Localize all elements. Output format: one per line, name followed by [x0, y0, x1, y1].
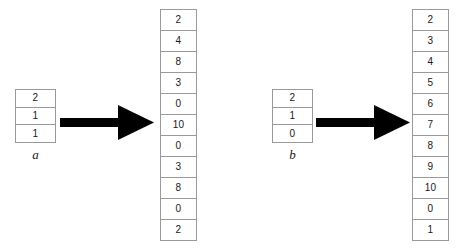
array-cell: 0: [413, 199, 448, 220]
output-array-a: 2 4 8 3 0 10 0 3 8 0 2: [160, 9, 197, 241]
array-label-a: a: [15, 148, 56, 161]
array-cell: 10: [413, 178, 448, 199]
array-cell: 5: [413, 73, 448, 94]
array-cell: 9: [413, 157, 448, 178]
array-cell: 1: [273, 108, 312, 126]
array-cell: 3: [161, 73, 196, 94]
array-cell: 1: [16, 125, 55, 142]
array-cell: 2: [161, 10, 196, 31]
array-cell: 0: [161, 199, 196, 220]
output-array-b: 2 3 4 5 6 7 8 9 10 0 1: [412, 9, 449, 241]
array-cell: 3: [413, 31, 448, 52]
array-cell: 2: [413, 10, 448, 31]
array-cell: 8: [413, 136, 448, 157]
input-array-a: 2 1 1: [15, 89, 56, 143]
array-cell: 2: [161, 220, 196, 240]
array-cell: 6: [413, 94, 448, 115]
array-cell: 1: [16, 108, 55, 126]
array-cell: 7: [413, 115, 448, 136]
array-cell: 2: [16, 90, 55, 108]
input-array-b: 2 1 0: [272, 89, 313, 143]
array-cell: 8: [161, 52, 196, 73]
array-cell: 4: [161, 31, 196, 52]
diagram-canvas: 2 1 1 a 2 4 8 3 0 10 0 3 8 0 2 2 1 0 b 2…: [0, 0, 463, 248]
array-cell: 2: [273, 90, 312, 108]
arrow-right-icon: [60, 103, 156, 143]
array-cell: 0: [273, 125, 312, 142]
array-cell: 8: [161, 178, 196, 199]
array-cell: 1: [413, 220, 448, 240]
array-cell: 10: [161, 115, 196, 136]
array-label-b: b: [272, 148, 313, 161]
arrow-right-icon: [316, 103, 412, 143]
array-cell: 3: [161, 157, 196, 178]
array-cell: 0: [161, 136, 196, 157]
array-cell: 4: [413, 52, 448, 73]
array-cell: 0: [161, 94, 196, 115]
